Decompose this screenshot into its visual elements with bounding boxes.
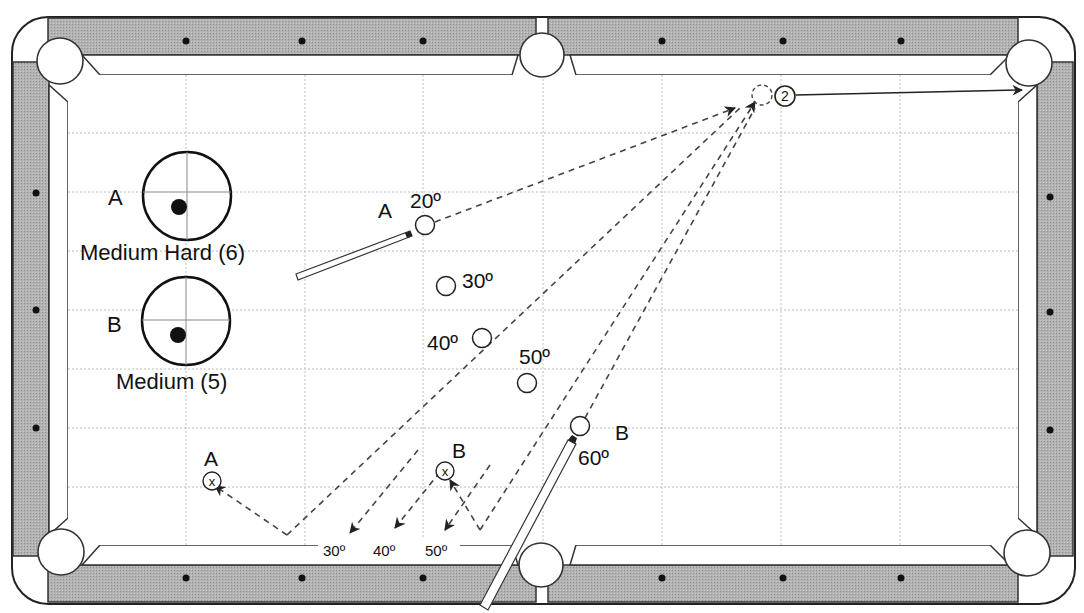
cue-ball-50 [518,374,537,393]
shot-label-a: A [378,199,392,222]
cue-tip-letter-b: B [107,312,122,337]
left-rail [13,62,49,556]
pocket-bottom-left [38,529,84,575]
pool-table-diagram: 2 20º 30º 40º 50º 60º A B x A x B 30º 40… [0,0,1084,613]
angle-label-50: 50º [519,345,550,368]
angle-label-30: 30º [462,269,493,292]
right-rail [1037,62,1073,556]
cue-tip-caption-b: Medium (5) [116,369,227,394]
bottom-rail-right [548,565,1018,602]
top-rail-right [548,18,1018,55]
cue-tip-caption-a: Medium Hard (6) [80,240,245,265]
object-ball: 2 [775,86,795,106]
rail-angle-30: 30º [323,542,346,559]
cue-ball-40 [473,329,492,348]
landing-label-a: A [204,447,218,470]
object-ball-number: 2 [781,88,789,104]
angle-label-40: 40º [427,331,458,354]
cue-tip-letter-a: A [108,185,123,210]
cue-ball-30 [437,277,456,296]
svg-text:x: x [209,474,216,489]
angle-label-60: 60º [578,446,609,469]
shot-label-b: B [615,421,629,444]
cue-tip-contact-dot-b [170,327,186,343]
pocket-top-left [37,38,83,84]
pocket-top-middle [520,33,564,77]
cue-ball-60 [571,417,590,436]
svg-text:x: x [442,464,449,479]
angle-label-20: 20º [410,189,441,212]
cue-tip-contact-dot-a [171,199,187,215]
bottom-rail-left [48,565,536,602]
pocket-bottom-middle [519,543,563,587]
top-rail-left [48,18,536,55]
landing-label-b: B [452,439,466,462]
rail-angle-40: 40º [373,542,396,559]
rail-angle-50: 50º [425,542,448,559]
pocket-top-right [1006,40,1052,86]
cue-ball-20 [416,216,435,235]
pocket-bottom-right [1004,530,1050,576]
